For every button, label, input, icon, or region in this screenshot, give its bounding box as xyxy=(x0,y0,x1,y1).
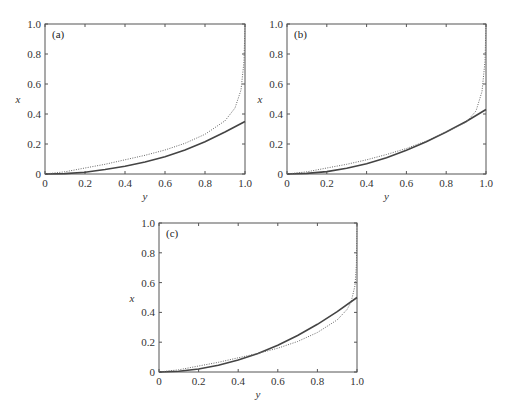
series-dotted-line xyxy=(159,223,357,372)
y-axis-label: x xyxy=(129,292,135,304)
x-tick-label: 1.0 xyxy=(350,375,364,387)
y-tick-label: 0.4 xyxy=(141,306,155,318)
x-tick-label: 0.8 xyxy=(311,375,325,387)
y-tick-label: 0.8 xyxy=(269,48,283,60)
y-tick-label: 0.6 xyxy=(141,277,155,289)
y-tick-label: 0.8 xyxy=(141,247,155,259)
y-tick-label: 1.0 xyxy=(269,18,283,30)
x-tick-label: 0.2 xyxy=(192,375,206,387)
x-tick-label: 0.6 xyxy=(271,375,285,387)
panel-label: (c) xyxy=(166,227,179,240)
y-tick-label: 0.8 xyxy=(27,48,41,60)
y-tick-label: 1.0 xyxy=(141,217,155,229)
x-tick-label: 0.8 xyxy=(198,177,212,189)
series-solid-line xyxy=(159,298,357,373)
x-tick-label: 0.4 xyxy=(360,177,374,189)
plot-frame xyxy=(159,223,357,372)
series-solid-line xyxy=(45,122,245,175)
y-tick-label: 0.2 xyxy=(27,138,41,150)
x-tick-label: 0 xyxy=(284,177,290,189)
x-tick-label: 0.8 xyxy=(439,177,453,189)
plot-frame xyxy=(45,24,245,174)
y-tick-label: 0.4 xyxy=(27,108,41,120)
x-tick-label: 1.0 xyxy=(238,177,252,189)
series-dotted-line xyxy=(287,24,486,174)
series-dotted-line xyxy=(45,24,245,174)
x-tick-label: 0.2 xyxy=(320,177,334,189)
y-tick-label: 0.6 xyxy=(269,78,283,90)
panel-label: (a) xyxy=(52,28,65,41)
x-tick-label: 0.2 xyxy=(78,177,92,189)
x-tick-label: 1.0 xyxy=(479,177,493,189)
x-tick-label: 0.6 xyxy=(158,177,172,189)
x-tick-label: 0.4 xyxy=(118,177,132,189)
x-tick-label: 0 xyxy=(42,177,48,189)
x-tick-label: 0.6 xyxy=(400,177,414,189)
panel-a: 00.20.40.60.81.000.20.40.60.81.0yx(a) xyxy=(15,18,253,202)
x-tick-label: 0.4 xyxy=(231,375,245,387)
x-axis-label: y xyxy=(255,388,261,400)
y-axis-label: x xyxy=(15,93,21,105)
panel-c: 00.20.40.60.81.000.20.40.60.81.0yx(c) xyxy=(129,217,365,400)
y-tick-label: 0 xyxy=(150,366,156,378)
y-tick-label: 0 xyxy=(36,168,42,180)
series-solid-line xyxy=(287,110,486,175)
y-tick-label: 0.4 xyxy=(269,108,283,120)
y-tick-label: 1.0 xyxy=(27,18,41,30)
y-tick-label: 0.6 xyxy=(27,78,41,90)
y-tick-label: 0.2 xyxy=(141,336,155,348)
y-tick-label: 0.2 xyxy=(269,138,283,150)
panel-b: 00.20.40.60.81.000.20.40.60.81.0yx(b) xyxy=(257,18,494,202)
plot-frame xyxy=(287,24,486,174)
x-tick-label: 0 xyxy=(156,375,162,387)
x-axis-label: y xyxy=(142,190,148,202)
y-axis-label: x xyxy=(257,93,263,105)
figure: 00.20.40.60.81.000.20.40.60.81.0yx(a) 00… xyxy=(0,0,510,412)
x-axis-label: y xyxy=(383,190,389,202)
y-tick-label: 0 xyxy=(278,168,284,180)
panel-label: (b) xyxy=(294,28,307,41)
